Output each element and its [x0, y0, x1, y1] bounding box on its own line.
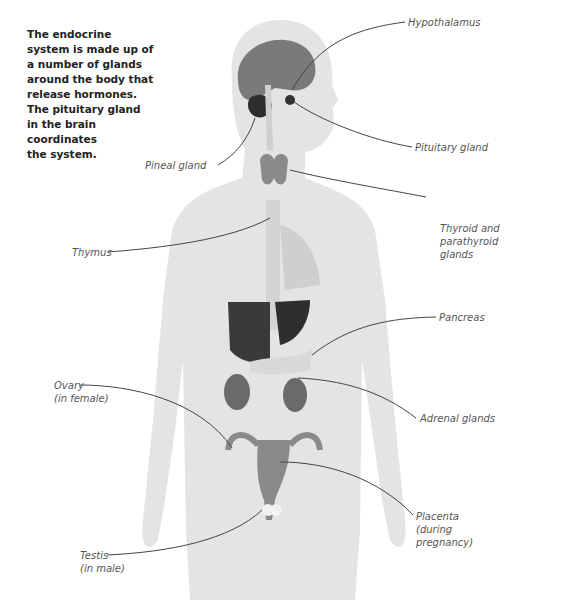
intro-text: The endocrine system is made up of a num… — [27, 27, 167, 162]
pituitary-shape — [285, 95, 295, 105]
label-hypothalamus: Hypothalamus — [408, 16, 481, 29]
label-text: Pancreas — [439, 311, 485, 324]
label-text: (in male) — [80, 562, 125, 575]
label-pancreas: Pancreas — [439, 311, 485, 324]
label-text: glands — [440, 248, 500, 261]
liver — [228, 302, 270, 362]
intro-line: system is made up of — [27, 42, 167, 57]
label-text: Ovary — [54, 379, 109, 392]
label-text: Thymus — [72, 246, 112, 259]
intro-line: in the brain — [27, 117, 167, 132]
label-text: Placenta — [416, 510, 473, 523]
label-text: Testis — [80, 549, 125, 562]
label-text: Pituitary gland — [415, 141, 488, 154]
label-adrenal-glands: Adrenal glands — [420, 412, 495, 425]
intro-line: The pituitary gland — [27, 102, 167, 117]
label-text: Adrenal glands — [420, 412, 495, 425]
intro-line: coordinates — [27, 132, 167, 147]
label-ovary: Ovary (in female) — [54, 379, 109, 405]
intro-line: around the body that — [27, 72, 167, 87]
label-thyroid: Thyroid and parathyroid glands — [440, 222, 500, 261]
label-text: Pineal gland — [145, 159, 206, 172]
intro-line: a number of glands — [27, 57, 167, 72]
label-text: pregnancy) — [416, 536, 473, 549]
label-thymus: Thymus — [72, 246, 112, 259]
label-text: Thyroid and — [440, 222, 500, 235]
label-text: (in female) — [54, 392, 109, 405]
label-text: Hypothalamus — [408, 16, 481, 29]
intro-line: release hormones. — [27, 87, 167, 102]
label-text: (during — [416, 523, 473, 536]
label-pituitary-gland: Pituitary gland — [415, 141, 488, 154]
label-text: parathyroid — [440, 235, 500, 248]
intro-line: The endocrine — [27, 27, 167, 42]
label-placenta: Placenta (during pregnancy) — [416, 510, 473, 549]
label-pineal-gland: Pineal gland — [145, 159, 206, 172]
label-testis: Testis (in male) — [80, 549, 125, 575]
